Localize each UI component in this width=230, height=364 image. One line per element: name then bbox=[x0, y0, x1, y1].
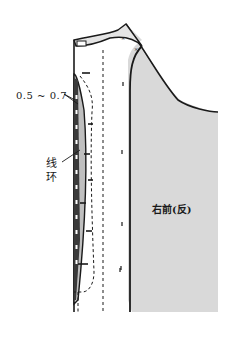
sewing-diagram: × × bbox=[0, 0, 230, 364]
thread-loop-label-line2: 环 bbox=[46, 168, 57, 184]
hem-ticks bbox=[119, 266, 121, 318]
dimension-label: 0.5 ~ 0.7 bbox=[16, 90, 67, 101]
panel-ticks bbox=[120, 82, 123, 322]
svg-text:×: × bbox=[121, 35, 125, 41]
piece-name-label: 右前(反) bbox=[152, 201, 191, 216]
svg-text:×: × bbox=[134, 46, 138, 52]
collar-tab bbox=[77, 41, 86, 46]
right-front-panel bbox=[126, 24, 218, 312]
